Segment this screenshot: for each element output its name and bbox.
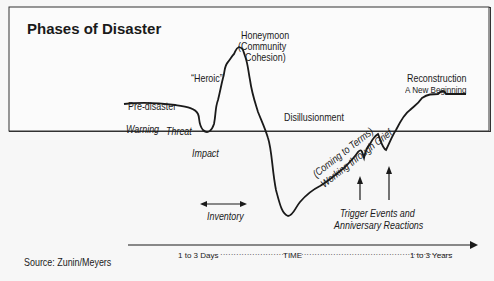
label-new-beginning: A New Beginning [405, 84, 467, 95]
source-citation: Source: Zunin/Meyers [24, 256, 111, 268]
label-heroic: “Heroic” [191, 72, 223, 84]
label-threat: Threat [166, 125, 192, 137]
label-inventory: Inventory [207, 210, 244, 222]
label-disillusionment: Disillusionment [284, 111, 344, 123]
label-pre-disaster: Pre-disaster [128, 100, 176, 112]
label-reconstruction: Reconstruction [407, 72, 467, 84]
label-trigger-events: Trigger Events and [340, 207, 415, 219]
time-axis-label: TIME [283, 251, 302, 260]
label-honeymoon-sub2: Cohesion) [245, 51, 286, 63]
label-impact: Impact [192, 147, 219, 159]
time-axis-start: 1 to 3 Days [178, 251, 218, 260]
time-axis-arrowhead [470, 241, 478, 249]
label-warning: Warning [126, 123, 159, 135]
time-axis-dots-left: ························· [220, 250, 287, 259]
diagram-title: Phases of Disaster [27, 20, 161, 37]
time-axis-end: 1 to 3 Years [410, 251, 452, 260]
label-anniversary-reactions: Anniversary Reactions [334, 219, 423, 231]
